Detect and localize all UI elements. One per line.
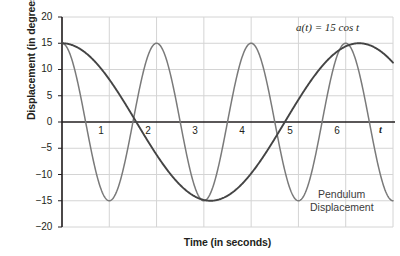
y-tick-label: 15 <box>18 37 52 48</box>
y-tick-label: −5 <box>18 142 52 153</box>
pendulum-displacement-chart: Displacement (in degrees) Time (in secon… <box>0 0 400 256</box>
x-tick-label: 3 <box>185 125 205 136</box>
x-tick-label: 2 <box>138 125 158 136</box>
x-tick-label: 4 <box>232 125 252 136</box>
y-tick-label: −15 <box>18 195 52 206</box>
y-tick-label: 5 <box>18 90 52 101</box>
x-axis-variable-label: t <box>379 124 382 135</box>
y-tick-label: 10 <box>18 63 52 74</box>
y-tick-label: 20 <box>18 11 52 22</box>
x-tick-label: 1 <box>91 125 111 136</box>
x-tick-label: 6 <box>327 125 347 136</box>
x-tick-label: 5 <box>280 125 300 136</box>
y-tick-label: 0 <box>18 116 52 127</box>
y-tick-label: −20 <box>18 221 52 232</box>
y-tick-label: −10 <box>18 169 52 180</box>
pendulum-curve-label-line2: Displacement <box>310 201 374 214</box>
equation-annotation: a(t) = 15 cos t <box>296 21 359 33</box>
pendulum-curve-label-line1: Pendulum <box>318 188 365 201</box>
